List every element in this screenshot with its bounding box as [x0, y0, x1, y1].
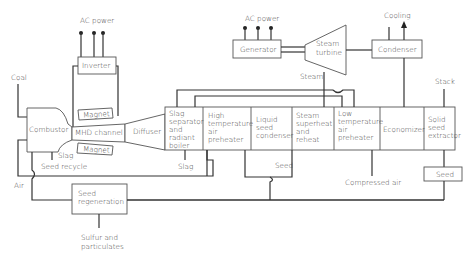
svg-text:extractor: extractor: [428, 131, 461, 140]
label-slag-separator: Slag: [178, 162, 193, 171]
seed-regen-label-2: regeneration: [78, 197, 124, 206]
label-sulfur-2: particulates: [81, 242, 124, 251]
label-cooling: Cooling: [384, 11, 411, 20]
svg-text:boiler: boiler: [169, 141, 189, 150]
steam-turbine-label-2: turbine: [316, 48, 342, 57]
label-coal: Coal: [11, 73, 27, 82]
mhd-plant-diagram: AC power Inverter Coal Combustor Slag Se…: [0, 0, 474, 258]
generator-label: Generator: [240, 45, 277, 54]
seed-box-label: Seed: [436, 170, 454, 179]
label-stack: Stack: [435, 77, 455, 86]
svg-text:reheat: reheat: [296, 135, 320, 144]
label-ac-power-right: AC power: [245, 14, 279, 23]
label-seed-out: Seed: [275, 161, 293, 170]
mhd-channel-label: MHD channel: [75, 128, 123, 137]
label-seed-recycle: Seed recycle: [41, 162, 87, 171]
steam-turbine-label-1: Steam: [316, 39, 339, 48]
label-steam: Steam: [300, 72, 323, 81]
svg-text:preheater: preheater: [208, 135, 243, 144]
magnet-bottom-label: Magnet: [83, 144, 110, 154]
combustor-label: Combustor: [29, 125, 68, 134]
ac-terminals-left: [79, 31, 105, 58]
label-ac-power-left: AC power: [80, 16, 114, 25]
inverter-label: Inverter: [82, 61, 111, 70]
solid-seed-extractor-label: Solid seed extractor: [428, 115, 461, 140]
svg-text:preheater: preheater: [338, 133, 373, 142]
condenser-label: Condenser: [378, 45, 417, 54]
diffuser-label: Diffuser: [133, 127, 161, 136]
label-compressed-air: Compressed air: [345, 178, 401, 187]
magnet-top-label: Magnet: [83, 109, 110, 119]
label-sulfur-1: Sulfur and: [81, 233, 118, 242]
label-slag-combustor: Slag: [58, 151, 73, 160]
label-air: Air: [14, 181, 24, 190]
economizer-label: Economizer: [383, 125, 425, 134]
cooling-arrow-icon: [401, 21, 407, 28]
ac-terminals-right: [243, 26, 273, 40]
svg-text:condenser: condenser: [256, 131, 294, 140]
